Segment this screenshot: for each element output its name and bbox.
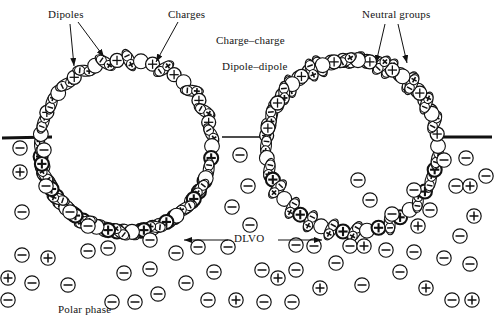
negative-ion [379, 243, 393, 257]
negative-ion [393, 265, 407, 279]
positive-ion [229, 293, 243, 307]
positive-ion [13, 165, 27, 179]
negative-ion [385, 207, 399, 221]
negative-ion [143, 233, 157, 247]
droplet-left [33, 47, 221, 243]
negative-ion [355, 278, 369, 292]
negative-ion [363, 193, 377, 207]
negative-ion [179, 276, 193, 290]
positive-ion [463, 179, 477, 193]
negative-ion [37, 143, 51, 157]
negative-ion [285, 295, 299, 309]
negative-ion [453, 229, 467, 243]
negative-ion [343, 239, 357, 253]
negative-ion [463, 257, 477, 271]
positive-ion [41, 251, 55, 265]
negative-ion [329, 256, 343, 270]
positive-ion [1, 271, 15, 285]
negative-ion [143, 262, 157, 276]
figure-canvas: DipolesChargesNeutral groupsCharge–charg… [0, 0, 494, 331]
dipoles-arrow-2 [78, 22, 104, 57]
negative-ion [25, 276, 39, 290]
negative-ion [15, 248, 29, 262]
negative-ion [289, 263, 303, 277]
positive-ion [419, 281, 433, 295]
negative-ion [423, 203, 437, 217]
interface-lines-group [2, 137, 492, 138]
label-neutral_groups: Neutral groups [362, 8, 430, 20]
label-charge_charge: Charge–charge [216, 34, 285, 46]
negative-ion [15, 205, 29, 219]
negative-ion [13, 141, 27, 155]
negative-ion [407, 183, 421, 197]
positive-ion [313, 281, 327, 295]
charges-arrow-1 [156, 22, 178, 62]
negative-ion [459, 151, 473, 165]
negative-ion [445, 293, 459, 307]
negative-ion [257, 295, 271, 309]
negative-ion [151, 287, 165, 301]
label-dipoles: Dipoles [48, 8, 84, 20]
negative-ion [81, 219, 95, 233]
label-charges: Charges [168, 8, 205, 20]
positive-ion [465, 293, 479, 307]
positive-ion [357, 239, 371, 253]
negative-ion [201, 293, 215, 307]
negative-ion [233, 148, 247, 162]
negative-ion [101, 241, 115, 255]
negative-ion [81, 244, 95, 258]
label-polar_phase: Polar phase [58, 303, 111, 315]
neutral-arrow-2 [398, 24, 407, 63]
negative-ion [207, 265, 221, 279]
negative-ion [117, 266, 131, 280]
negative-ion [449, 179, 463, 193]
label-dipole_dipole: Dipole–dipole [222, 60, 288, 72]
negative-ion [63, 205, 77, 219]
negative-ion [128, 295, 142, 309]
negative-ion [437, 153, 451, 167]
negative-ion [169, 246, 183, 260]
negative-ion [243, 218, 257, 232]
dipoles-arrow-1 [70, 24, 74, 66]
positive-ion [467, 209, 481, 223]
negative-ion [437, 251, 451, 265]
negative-ion [225, 200, 239, 214]
negative-ion [241, 179, 255, 193]
negative-ion [407, 245, 421, 259]
negative-ion [39, 179, 53, 193]
label-dlvo: DLVO [234, 232, 264, 244]
positive-ion [411, 219, 425, 233]
negative-ion [191, 240, 205, 254]
negative-ion [61, 278, 75, 292]
negative-ion [479, 169, 493, 183]
droplet-shells-group [33, 47, 445, 244]
negative-ion [1, 293, 15, 307]
droplet-right [259, 49, 445, 245]
diagram-artwork [0, 0, 494, 331]
negative-ion [255, 263, 269, 277]
positive-ion [271, 271, 285, 285]
negative-ion [307, 239, 321, 253]
negative-ion [351, 173, 365, 187]
